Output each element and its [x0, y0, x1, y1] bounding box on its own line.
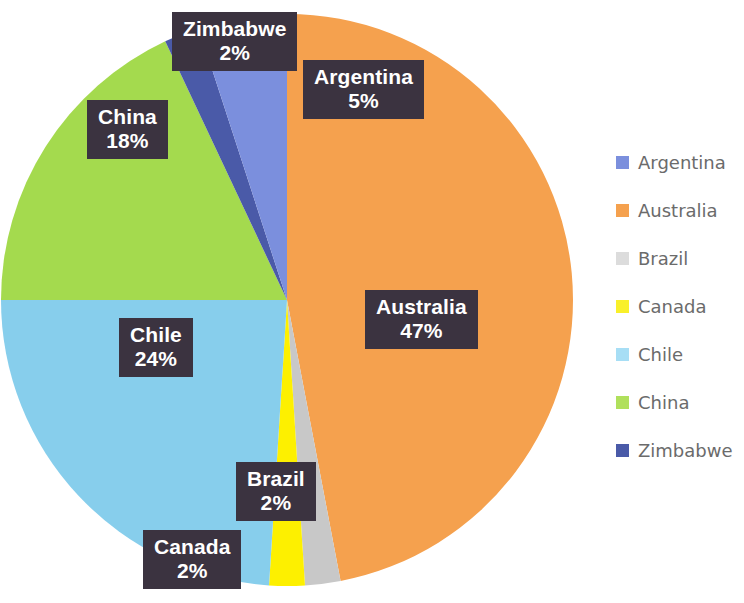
legend-item-china[interactable]: China — [616, 378, 744, 426]
legend-label-canada: Canada — [638, 296, 707, 317]
pie-label-zimbabwe-name: Zimbabwe — [183, 17, 286, 41]
legend-label-australia: Australia — [638, 200, 718, 221]
pie-chart: Zimbabwe 2% Argentina 5% China 18% Chile… — [0, 0, 744, 603]
legend-item-argentina[interactable]: Argentina — [616, 138, 744, 186]
legend-item-chile[interactable]: Chile — [616, 330, 744, 378]
legend-label-china: China — [638, 392, 689, 413]
pie-label-china-value: 18% — [98, 129, 157, 153]
pie-label-canada-name: Canada — [154, 535, 230, 559]
pie-label-canada-value: 2% — [154, 559, 230, 583]
legend-label-chile: Chile — [638, 344, 683, 365]
pie-label-australia-value: 47% — [376, 319, 467, 343]
pie-label-argentina: Argentina 5% — [303, 60, 424, 119]
pie-label-argentina-name: Argentina — [314, 65, 413, 89]
pie-label-canada: Canada 2% — [143, 530, 241, 589]
legend-swatch-china — [616, 396, 629, 409]
pie-label-chile-value: 24% — [130, 347, 182, 371]
pie-label-chile: Chile 24% — [119, 318, 193, 377]
legend-label-brazil: Brazil — [638, 248, 688, 269]
legend-swatch-canada — [616, 300, 629, 313]
pie-label-brazil-value: 2% — [247, 491, 305, 515]
legend-label-zimbabwe: Zimbabwe — [638, 440, 733, 461]
legend-item-zimbabwe[interactable]: Zimbabwe — [616, 426, 744, 474]
pie-label-china: China 18% — [87, 100, 168, 159]
legend-swatch-australia — [616, 204, 629, 217]
pie-label-china-name: China — [98, 105, 157, 129]
legend-swatch-argentina — [616, 156, 629, 169]
legend-swatch-zimbabwe — [616, 444, 629, 457]
pie-label-chile-name: Chile — [130, 323, 182, 347]
legend-item-brazil[interactable]: Brazil — [616, 234, 744, 282]
pie-label-zimbabwe-value: 2% — [183, 41, 286, 65]
legend-item-australia[interactable]: Australia — [616, 186, 744, 234]
pie-label-brazil: Brazil 2% — [236, 462, 316, 521]
pie-label-australia: Australia 47% — [365, 290, 478, 349]
legend: Argentina Australia Brazil Canada Chile … — [616, 138, 744, 474]
legend-label-argentina: Argentina — [638, 152, 726, 173]
legend-swatch-chile — [616, 348, 629, 361]
legend-item-canada[interactable]: Canada — [616, 282, 744, 330]
pie-label-argentina-value: 5% — [314, 89, 413, 113]
pie-label-australia-name: Australia — [376, 295, 467, 319]
legend-swatch-brazil — [616, 252, 629, 265]
pie-label-brazil-name: Brazil — [247, 467, 305, 491]
pie-label-zimbabwe: Zimbabwe 2% — [172, 12, 297, 71]
